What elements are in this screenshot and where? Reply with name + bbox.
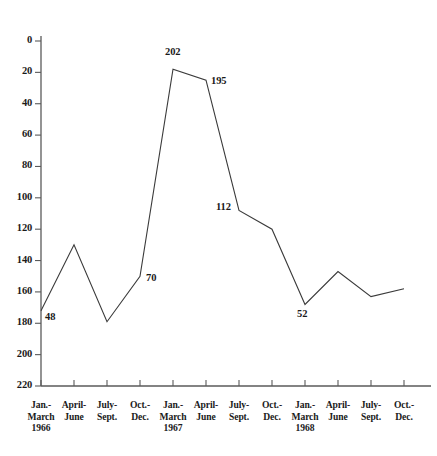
y-axis-tick-label: 40: [22, 97, 32, 108]
x-axis-tick-label-line: Oct.-: [380, 399, 428, 411]
y-axis-tick-label: 60: [22, 128, 32, 139]
data-point-value-label: 202: [165, 46, 180, 57]
data-point-value-label: 48: [45, 311, 55, 322]
data-point-value-label: 70: [146, 272, 156, 283]
x-axis-tick-label-line: 1967: [149, 422, 197, 434]
x-axis-tick-label-line: Dec.: [380, 411, 428, 423]
y-axis-tick-label: 120: [17, 222, 32, 233]
y-axis-tick-label: 180: [17, 316, 32, 327]
data-point-value-label: 52: [297, 308, 307, 319]
y-axis-tick-label: 20: [22, 65, 32, 76]
chart-plot-area: [0, 0, 437, 456]
y-axis-tick-label: 200: [17, 348, 32, 359]
y-axis-tick-label: 160: [17, 285, 32, 296]
y-axis-tick-label: 140: [17, 254, 32, 265]
y-axis-tick-label: 0: [27, 34, 32, 45]
line-chart: 220200180160140120100806040200 Jan.-Marc…: [0, 0, 437, 456]
data-series-line: [41, 69, 404, 321]
chart-axes: [35, 36, 431, 386]
data-point-value-label: 112: [216, 201, 231, 212]
x-axis-tick-label-line: 1966: [17, 422, 65, 434]
y-axis-tick-label: 80: [22, 159, 32, 170]
y-axis-tick-label: 100: [17, 191, 32, 202]
y-axis-tick-label: 220: [17, 379, 32, 390]
x-axis-tick-label-line: 1968: [281, 422, 329, 434]
data-point-value-label: 195: [211, 75, 226, 86]
x-axis-tick-label: Oct.-Dec.: [380, 399, 428, 422]
